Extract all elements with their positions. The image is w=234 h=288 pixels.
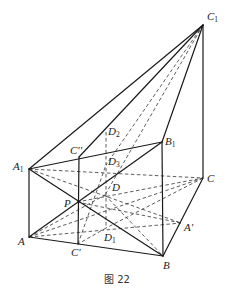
point-label-C: C	[207, 172, 215, 184]
point-label-B1: B1	[165, 135, 176, 149]
solid-segment-B1-B	[162, 142, 163, 256]
solid-segment-A1-B	[29, 169, 163, 256]
solid-segment-A1-C1	[29, 25, 203, 169]
dashed-segment-C'-D3	[78, 165, 106, 244]
dashed-segment-C1-D	[105, 25, 203, 195]
dashed-segment-P-A'	[77, 202, 181, 223]
point-label-D1: D1	[103, 231, 116, 245]
point-label-D: D	[111, 181, 120, 193]
solid-segment-A-B	[29, 237, 163, 256]
point-label-Ap: A'	[183, 221, 194, 233]
solid-segment-C2-C1	[79, 25, 203, 157]
solid-segment-A1-B1	[29, 142, 162, 169]
point-label-A1: A1	[12, 160, 24, 174]
point-label-P: P	[63, 197, 71, 209]
dashed-lines	[29, 25, 203, 256]
point-label-C1: C1	[207, 10, 218, 24]
solid-segment-B-C	[163, 178, 203, 256]
dashed-segment-P-C	[77, 178, 203, 202]
point-label-C2: C''	[70, 144, 83, 156]
dashed-segment-A1-A'	[29, 169, 181, 223]
dashed-segment-D-B	[105, 195, 163, 256]
point-label-D2: D2	[107, 125, 120, 139]
point-label-A: A	[17, 235, 25, 247]
figure-caption: 图 22	[104, 274, 130, 285]
point-label-D3: D3	[107, 155, 120, 169]
point-label-B: B	[163, 259, 170, 271]
geometry-figure: C1A1B1C''D2D3CDPA'D1AC'B 图 22	[0, 0, 234, 288]
point-label-Cp: C'	[71, 246, 81, 258]
